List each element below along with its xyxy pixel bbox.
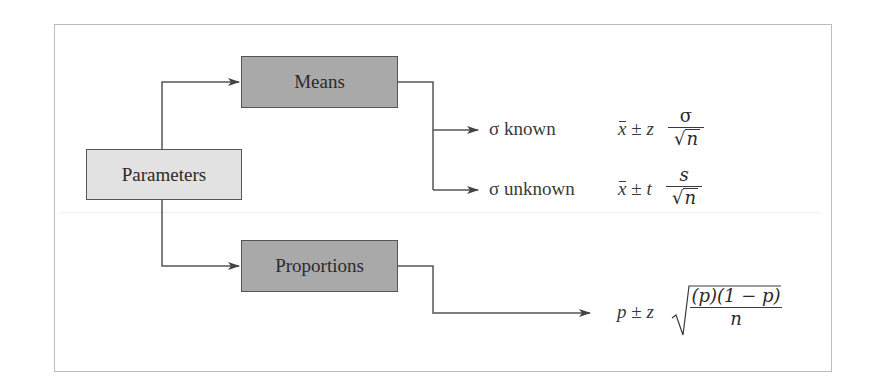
sqrt-icon: √ — [672, 187, 683, 208]
fraction-s-over-root-n: s √n — [666, 166, 702, 208]
edge-proportions-formula — [398, 266, 590, 313]
formula-sigma-known: x ± z — [618, 118, 654, 140]
formula-sigma-unknown: x ± t — [618, 178, 652, 200]
plus-minus-symbol: ± — [631, 301, 641, 322]
numerator-p-one-minus-p: (p)(1 − p) — [690, 287, 782, 305]
edge-parameters-proportions — [162, 200, 239, 266]
branch-sigma-unknown-label: σ unknown — [489, 178, 575, 200]
sqrt-icon: √ — [674, 128, 685, 149]
branch-sigma-known-label: σ known — [489, 118, 556, 140]
xbar-symbol: x — [618, 118, 626, 140]
critical-value-t: t — [646, 178, 651, 199]
formula-proportion: p ± z — [617, 301, 654, 323]
numerator-sigma: σ — [668, 107, 704, 125]
edge-parameters-means — [162, 82, 239, 149]
variable-n: n — [683, 187, 696, 208]
node-proportions-label: Proportions — [275, 255, 364, 277]
estimator-p: p — [617, 301, 627, 322]
plus-minus-symbol: ± — [631, 118, 641, 139]
plus-minus-symbol: ± — [631, 178, 641, 199]
numerator-s: s — [666, 166, 702, 184]
critical-value-z: z — [646, 118, 653, 139]
denominator-root-n: √n — [666, 188, 702, 208]
denominator-root-n: √n — [668, 129, 704, 149]
node-proportions: Proportions — [241, 240, 398, 292]
denominator-n: n — [690, 309, 782, 329]
xbar-symbol: x — [618, 178, 626, 200]
fraction-proportion-variance: (p)(1 − p) n — [690, 287, 782, 329]
node-means: Means — [241, 56, 398, 108]
node-means-label: Means — [294, 71, 345, 93]
node-parameters: Parameters — [86, 149, 242, 200]
node-parameters-label: Parameters — [122, 164, 206, 186]
critical-value-z: z — [646, 301, 653, 322]
fraction-sigma-over-root-n: σ √n — [668, 107, 704, 149]
variable-n: n — [685, 128, 698, 149]
